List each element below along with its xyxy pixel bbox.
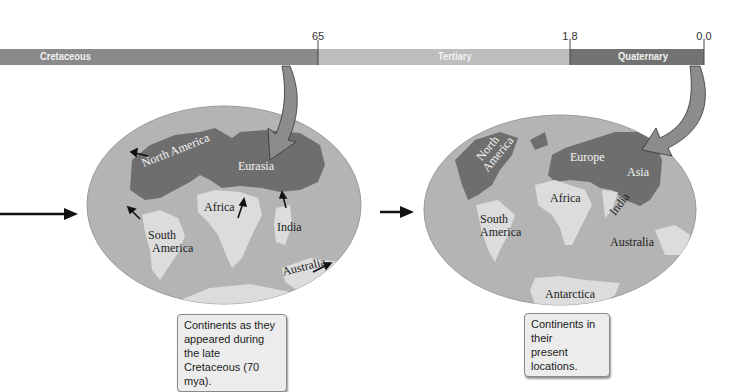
period-label-quaternary: Quaternary (618, 50, 668, 62)
label-africa: Africa (550, 192, 581, 205)
label-antarctica: Antarctica (545, 288, 595, 301)
caption-line: Continents as they (184, 318, 280, 332)
label-eurasia: Eurasia (238, 160, 274, 173)
period-label-tertiary: Tertiary (438, 50, 472, 62)
label-asia: Asia (627, 166, 649, 179)
label-south-america-2: America (480, 226, 521, 239)
caption-line: appeared during the late (184, 332, 280, 360)
label-australia: Australia (610, 236, 654, 249)
label-europe: Europe (570, 151, 605, 164)
label-india: India (277, 221, 302, 234)
curved-arrow-present-icon (642, 66, 705, 156)
label-africa: Africa (204, 201, 235, 214)
caption-line: present locations. (531, 345, 603, 373)
caption-line: Cretaceous (70 mya). (184, 360, 280, 388)
caption-line: Continents in their (531, 317, 603, 345)
tick-label-0-0: 0.0 (696, 30, 711, 42)
tick-label-1-8: 1.8 (562, 30, 577, 42)
tick-label-65: 65 (312, 30, 324, 42)
caption-present: Continents in their present locations. (524, 313, 610, 377)
timeline-bar (0, 40, 704, 65)
caption-cretaceous: Continents as they appeared during the l… (177, 314, 287, 392)
label-south-america-2: America (152, 242, 193, 255)
period-label-cretaceous: Cretaceous (40, 50, 91, 62)
